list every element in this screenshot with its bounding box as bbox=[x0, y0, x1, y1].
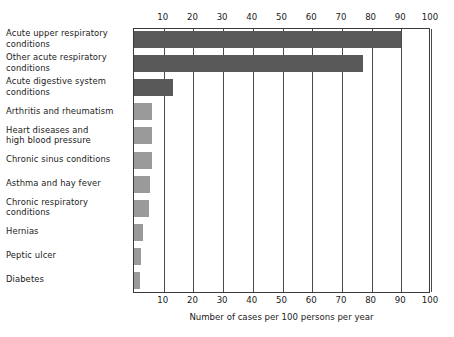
axis-tick-40: 40 bbox=[246, 295, 257, 306]
category-label: Diabetes bbox=[6, 274, 124, 284]
bar bbox=[134, 31, 401, 48]
category-label: Asthma and hay fever bbox=[6, 178, 124, 188]
bar-chart-figure: Acute upper respiratory conditionsOther … bbox=[0, 0, 454, 337]
axis-tick-70: 70 bbox=[335, 12, 346, 23]
category-label: Peptic ulcer bbox=[6, 250, 124, 260]
axis-tick-30: 30 bbox=[217, 295, 228, 306]
bar bbox=[134, 176, 150, 193]
axis-tick-100: 100 bbox=[422, 12, 438, 23]
axis-tick-50: 50 bbox=[276, 295, 287, 306]
axis-tick-80: 80 bbox=[365, 12, 376, 23]
bar bbox=[134, 152, 152, 169]
axis-tick-100: 100 bbox=[422, 295, 438, 306]
axis-tick-80: 80 bbox=[365, 295, 376, 306]
axis-tick-90: 90 bbox=[395, 295, 406, 306]
bar bbox=[134, 248, 141, 265]
x-axis-caption: Number of cases per 100 persons per year bbox=[133, 312, 430, 322]
gridline-80 bbox=[372, 29, 373, 292]
category-label: Other acute respiratory conditions bbox=[6, 52, 124, 73]
category-label: Chronic respiratory conditions bbox=[6, 197, 124, 218]
category-label: Heart diseases and high blood pressure bbox=[6, 125, 124, 146]
plot-area bbox=[133, 28, 430, 293]
axis-tick-60: 60 bbox=[306, 12, 317, 23]
gridline-90 bbox=[401, 29, 402, 292]
top-axis-tick-labels: 102030405060708090100 bbox=[133, 12, 430, 26]
axis-tick-40: 40 bbox=[246, 12, 257, 23]
bar bbox=[134, 127, 152, 144]
bar bbox=[134, 55, 363, 72]
gridline-100 bbox=[431, 29, 432, 292]
axis-tick-50: 50 bbox=[276, 12, 287, 23]
axis-tick-30: 30 bbox=[217, 12, 228, 23]
axis-tick-10: 10 bbox=[157, 295, 168, 306]
bar bbox=[134, 103, 152, 120]
axis-tick-20: 20 bbox=[187, 12, 198, 23]
category-label: Arthritis and rheumatism bbox=[6, 106, 124, 116]
category-label-column: Acute upper respiratory conditionsOther … bbox=[0, 25, 128, 293]
axis-tick-10: 10 bbox=[157, 12, 168, 23]
axis-tick-20: 20 bbox=[187, 295, 198, 306]
bottom-axis-tick-labels: 102030405060708090100 bbox=[133, 295, 430, 309]
axis-tick-60: 60 bbox=[306, 295, 317, 306]
axis-tick-70: 70 bbox=[335, 295, 346, 306]
bar bbox=[134, 200, 149, 217]
category-label: Acute upper respiratory conditions bbox=[6, 28, 124, 49]
bar bbox=[134, 79, 173, 96]
category-label: Acute digestive system conditions bbox=[6, 76, 124, 97]
bar bbox=[134, 224, 143, 241]
bar bbox=[134, 272, 140, 289]
category-label: Chronic sinus conditions bbox=[6, 154, 124, 164]
category-label: Hernias bbox=[6, 226, 124, 236]
axis-tick-90: 90 bbox=[395, 12, 406, 23]
